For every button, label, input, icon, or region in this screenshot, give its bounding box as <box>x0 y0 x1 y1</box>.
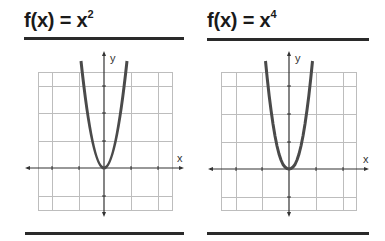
axes <box>208 51 369 217</box>
y-axis-label: y <box>110 52 116 64</box>
bottom-rule <box>25 232 184 235</box>
graph-x-squared: y x <box>0 0 192 241</box>
axes <box>25 51 184 217</box>
y-axis-label: y <box>295 52 301 64</box>
graph-x-fourth: y x <box>192 0 385 241</box>
x-axis-label: x <box>363 153 369 165</box>
bottom-rule <box>207 232 369 235</box>
panel-x-squared: f(x) = x2 <box>0 0 192 241</box>
panel-x-fourth: f(x) = x4 <box>192 0 385 241</box>
x-axis-label: x <box>177 152 183 164</box>
